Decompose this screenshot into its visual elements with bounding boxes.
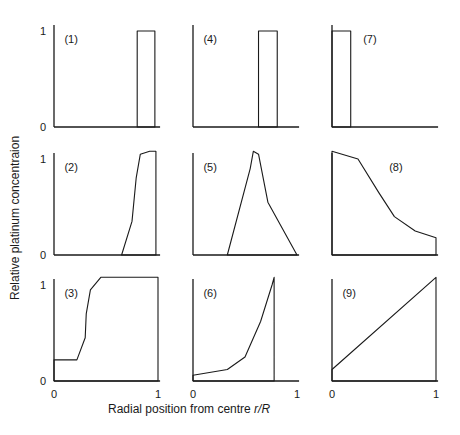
panel-4: (4)	[193, 25, 299, 127]
panel-label: (5)	[203, 161, 216, 173]
panel-5: (5)	[193, 151, 299, 255]
x-tick-label: 1	[155, 388, 161, 400]
y-tick-label: 0	[40, 249, 46, 261]
panel-label: (2)	[64, 161, 77, 173]
hatched-region	[227, 151, 297, 255]
panel-6: (6)01	[190, 277, 300, 400]
panel-label: (1)	[64, 33, 77, 45]
x-tick-label: 1	[433, 388, 439, 400]
x-axis-label: Radial position from centre r/R	[108, 402, 270, 416]
y-tick-label: 0	[40, 375, 46, 387]
panel-label: (3)	[64, 287, 77, 299]
x-axis-variable: r/R	[254, 402, 270, 416]
panel-label: (6)	[203, 287, 216, 299]
x-tick-label: 0	[190, 388, 196, 400]
x-axis-label-text: Radial position from centre	[108, 402, 251, 416]
hatched-region	[332, 151, 436, 255]
panel-label: (7)	[363, 33, 376, 45]
figure-grid: (1)01(2)01(3)0101(4)(5)(6)01(7)(8)(9)01	[0, 0, 460, 435]
panel-1: (1)01	[40, 25, 160, 133]
hatched-region	[332, 31, 351, 127]
x-tick-label: 1	[294, 388, 300, 400]
panel-label: (4)	[203, 33, 216, 45]
y-tick-label: 1	[40, 279, 46, 291]
y-tick-label: 1	[40, 153, 46, 165]
panel-8: (8)	[332, 151, 438, 255]
x-tick-label: 0	[51, 388, 57, 400]
hatched-region	[122, 151, 156, 255]
y-axis-label-text: Relative platinum concentraion	[8, 136, 22, 300]
panel-9: (9)01	[329, 277, 439, 400]
y-tick-label: 1	[40, 25, 46, 37]
panel-3: (3)0101	[40, 277, 161, 400]
hatched-region	[259, 31, 278, 127]
x-tick-label: 0	[329, 388, 335, 400]
panel-label: (8)	[389, 161, 402, 173]
panel-7: (7)	[332, 25, 438, 127]
y-tick-label: 0	[40, 121, 46, 133]
panel-2: (2)01	[40, 151, 160, 261]
panel-label: (9)	[342, 287, 355, 299]
hatched-region	[137, 31, 155, 127]
